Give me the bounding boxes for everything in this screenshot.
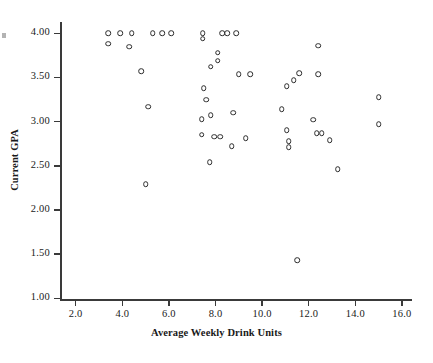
data-point	[376, 94, 382, 100]
y-axis-label: Current GPA	[9, 129, 20, 191]
x-axis-tick	[401, 300, 403, 306]
data-point	[319, 130, 325, 136]
y-axis-tick	[54, 165, 61, 167]
x-axis-tick	[122, 300, 124, 306]
data-point	[315, 43, 321, 49]
x-axis-tick-label: 12.0	[299, 308, 318, 319]
x-axis-tick	[355, 300, 357, 306]
data-point	[236, 71, 242, 77]
data-point	[248, 71, 254, 77]
x-axis-tick-label: 14.0	[346, 308, 365, 319]
data-point	[117, 31, 123, 37]
y-axis-tick	[54, 209, 61, 211]
y-axis-tick-label: 4.00	[0, 26, 50, 37]
data-point	[284, 128, 290, 134]
x-axis-tick-label: 2.0	[69, 308, 83, 319]
data-point	[129, 31, 135, 37]
data-point	[229, 144, 235, 150]
data-point	[286, 144, 292, 150]
scatter-plot-figure: 1.001.502.002.503.003.504.00 2.04.06.08.…	[0, 0, 433, 363]
data-point	[215, 58, 221, 64]
data-point	[106, 31, 112, 37]
x-axis-tick-label: 8.0	[209, 308, 223, 319]
data-point	[106, 41, 112, 47]
data-point	[376, 122, 382, 128]
data-point	[291, 77, 297, 83]
data-point	[311, 117, 317, 123]
data-point	[143, 182, 149, 188]
y-axis-tick-label: 3.50	[0, 70, 50, 81]
y-axis-tick-label: 1.50	[0, 247, 50, 258]
data-point	[208, 113, 214, 119]
data-point	[335, 167, 341, 173]
data-point	[215, 50, 221, 56]
x-axis-tick-label: 10.0	[253, 308, 272, 319]
y-axis-tick-label: 2.50	[0, 159, 50, 170]
data-point	[208, 64, 214, 70]
x-axis-tick	[308, 300, 310, 306]
x-axis-tick	[168, 300, 170, 306]
data-point	[315, 71, 321, 77]
y-axis-tick	[54, 121, 61, 123]
data-point	[150, 31, 156, 37]
data-point	[145, 104, 151, 110]
data-point	[294, 258, 300, 264]
x-axis-label: Average Weekly Drink Units	[0, 327, 433, 338]
data-point	[138, 68, 144, 74]
data-point	[297, 70, 303, 76]
data-point	[230, 110, 236, 116]
data-point	[212, 134, 218, 140]
y-axis-tick-label: 2.00	[0, 203, 50, 214]
data-point	[199, 132, 205, 138]
plot-area	[61, 22, 409, 299]
x-axis-tick-label: 16.0	[392, 308, 411, 319]
data-point	[203, 97, 209, 103]
x-axis-tick-label: 6.0	[162, 308, 176, 319]
data-point	[159, 31, 165, 37]
x-axis-tick	[75, 300, 77, 306]
data-point	[126, 44, 132, 50]
y-axis-tick-label: 1.00	[0, 291, 50, 302]
data-point	[201, 85, 207, 91]
x-axis-tick	[261, 300, 263, 306]
data-point	[217, 134, 223, 140]
data-point	[207, 159, 213, 165]
data-point	[279, 106, 285, 112]
data-point	[327, 137, 333, 143]
x-axis-line	[60, 299, 412, 301]
y-axis-tick	[54, 77, 61, 79]
data-point	[234, 31, 240, 37]
data-point	[284, 84, 290, 90]
data-point	[199, 116, 205, 122]
y-axis-tick	[54, 298, 61, 300]
x-axis-tick-label: 4.0	[115, 308, 129, 319]
data-point	[243, 136, 249, 142]
y-axis-tick	[54, 253, 61, 255]
y-axis-tick	[54, 33, 61, 35]
data-point	[168, 31, 174, 37]
data-point	[224, 31, 230, 37]
data-point	[200, 36, 206, 42]
data-point	[286, 138, 292, 144]
x-axis-tick	[215, 300, 217, 306]
y-axis-tick-label: 3.00	[0, 115, 50, 126]
